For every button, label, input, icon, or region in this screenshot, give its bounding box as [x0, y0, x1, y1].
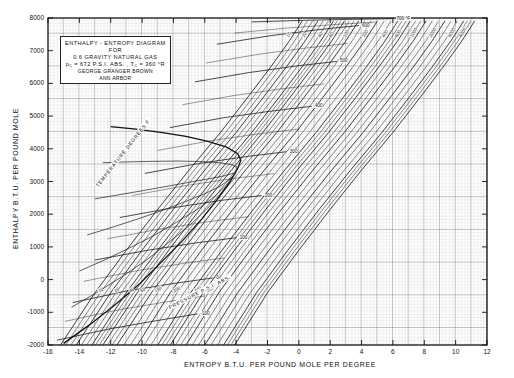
x-tick-0: 0: [287, 348, 311, 355]
x-tick--4: -4: [224, 348, 248, 355]
x-tick--12: -12: [99, 348, 123, 355]
temperature-label-300: 300: [289, 149, 298, 154]
temperature-label-100: 100: [239, 235, 248, 240]
y-tick-6000: 6000: [14, 79, 44, 86]
y-tick-8000: 8000: [14, 14, 44, 21]
title-line-4: pC = 672 P.S.I. ABS. , TC = 360 °R: [65, 61, 166, 68]
x-tick-4: 4: [350, 348, 374, 355]
x-tick--14: -14: [67, 348, 91, 355]
x-tick-6: 6: [381, 348, 405, 355]
x-tick--16: -16: [36, 348, 60, 355]
title-author: GEORGE GRANGER BROWN: [65, 68, 166, 74]
title-location: ANN ARBOR: [65, 75, 166, 81]
x-tick--2: -2: [256, 348, 280, 355]
title-line-3: 0.6 GRAVITY NATURAL GAS: [65, 54, 166, 61]
y-tick-4000: 4000: [14, 145, 44, 152]
temperature-label-700F: 700 °F: [396, 16, 411, 21]
y-tick-5000: 5000: [14, 112, 44, 119]
temperature-label-400: 400: [314, 103, 323, 108]
x-tick--10: -10: [130, 348, 154, 355]
x-axis-title: ENTROPY B.T.U. PER POUND MOLE PER DEGREE: [150, 361, 410, 368]
x-tick-12: 12: [475, 348, 499, 355]
y-tick-7000: 7000: [14, 47, 44, 54]
x-tick-2: 2: [318, 348, 342, 355]
y-tick-0: 0: [14, 276, 44, 283]
title-line-2: FOR: [65, 47, 166, 54]
temperature-label-500: 500: [339, 58, 348, 63]
x-tick--6: -6: [193, 348, 217, 355]
title-block: ENTHALPY - ENTROPY DIAGRAM FOR 0.6 GRAVI…: [60, 36, 171, 84]
y-tick-3000: 3000: [14, 178, 44, 185]
x-tick-8: 8: [412, 348, 436, 355]
title-line-1: ENTHALPY - ENTROPY DIAGRAM: [65, 40, 166, 47]
y-tick--1000: -1000: [14, 308, 44, 315]
temperature-label-200: 200: [264, 193, 273, 198]
x-tick--8: -8: [161, 348, 185, 355]
y-tick--2000: -2000: [14, 341, 44, 348]
x-tick-10: 10: [444, 348, 468, 355]
y-tick-2000: 2000: [14, 210, 44, 217]
temperature-label-600: 600: [361, 23, 370, 28]
pc-value: = 672 P.S.I. ABS. ,: [72, 61, 130, 67]
temperature-label--100: -100: [200, 311, 210, 316]
enthalpy-entropy-chart: ENTHALPY B.T.U. PER POUND MOLE ENTROPY B…: [0, 0, 514, 378]
y-tick-1000: 1000: [14, 243, 44, 250]
tc-value: = 360 °R: [137, 61, 165, 67]
